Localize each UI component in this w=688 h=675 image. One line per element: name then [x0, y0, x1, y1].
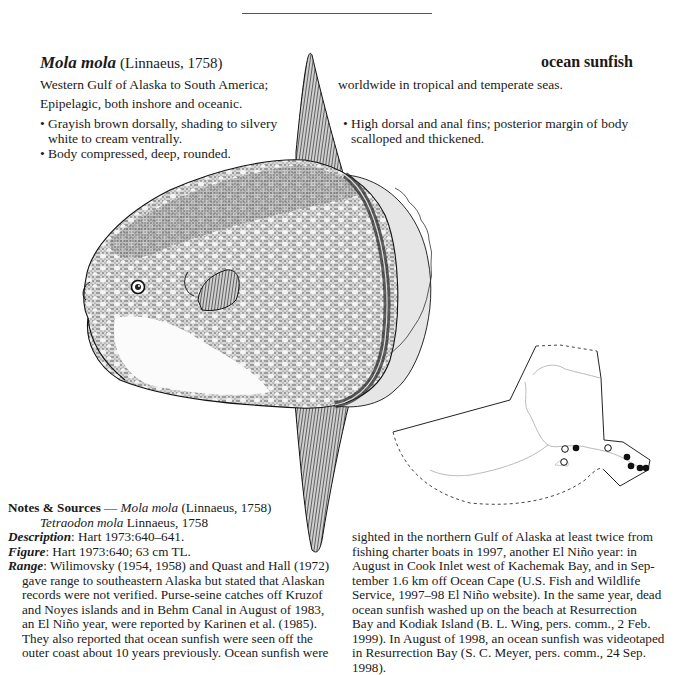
notes-left-column: Notes & Sources — Mola mola (Linnaeus, 1…: [8, 501, 330, 661]
record-icon: [624, 454, 631, 461]
range-notes-left: Range: Wilimovsky (1954, 1958) and Quast…: [8, 559, 330, 661]
synonym: Tetraodon mola Linnaeus, 1758: [8, 516, 330, 531]
record-markers: [561, 445, 650, 472]
boundary-dashed: [393, 345, 604, 504]
range-notes-right: sighted in the northern Gulf of Alaska a…: [352, 530, 682, 675]
record-icon: [637, 465, 644, 472]
record-icon: [628, 463, 635, 470]
record-icon: [573, 445, 580, 452]
coastline: [430, 365, 648, 476]
record-icon: [643, 465, 650, 472]
unverified-record-icon: [562, 446, 569, 453]
unverified-record-icon: [605, 445, 612, 452]
figure-ref: Figure: Hart 1973:640; 63 cm TL.: [8, 545, 330, 560]
notes-heading: Notes & Sources — Mola mola (Linnaeus, 1…: [8, 501, 330, 516]
description-ref: Description: Hart 1973:640–641.: [8, 530, 330, 545]
unverified-record-icon: [561, 459, 568, 466]
boundary-solid: [393, 346, 650, 486]
